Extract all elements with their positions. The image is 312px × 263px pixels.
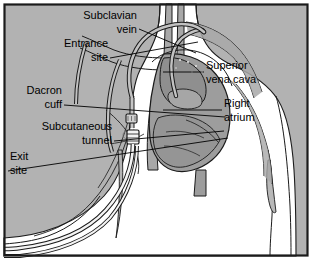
label-dacron-cuff-line1: Dacron [27,84,62,96]
dacron-cuff [126,114,137,123]
label-right-atrium-line1: Right [224,97,250,109]
label-dacron-cuff-line2: cuff [44,98,62,110]
exit-site-hub [127,130,139,144]
inferior-vena-cava [194,170,206,196]
label-superior-vena-cava-line2: vena cava [206,73,257,85]
label-subclavian-vein-line1: Subclavian [83,9,137,21]
label-right-atrium-line2: atrium [224,111,255,123]
label-entrance-site-line2: site [91,51,108,63]
label-subcutaneous-tunnel-line2: tunnel [82,134,112,146]
diagram-canvas: Subclavian vein Entrance site Dacron cuf… [0,0,312,263]
illustration: Subclavian vein Entrance site Dacron cuf… [4,4,308,256]
anatomy-diagram: Subclavian vein Entrance site Dacron cuf… [0,0,312,263]
label-superior-vena-cava-line1: Superior [206,59,248,71]
left-carotid-artery [177,4,184,56]
label-entrance-site-line1: Entrance [64,37,108,49]
label-subclavian-vein-line2: vein [117,23,137,35]
label-exit-site-line1: Exit [10,150,28,162]
label-exit-site-line2: site [10,164,27,176]
hub-body [127,130,139,144]
label-subcutaneous-tunnel-line1: Subcutaneous [42,120,113,132]
